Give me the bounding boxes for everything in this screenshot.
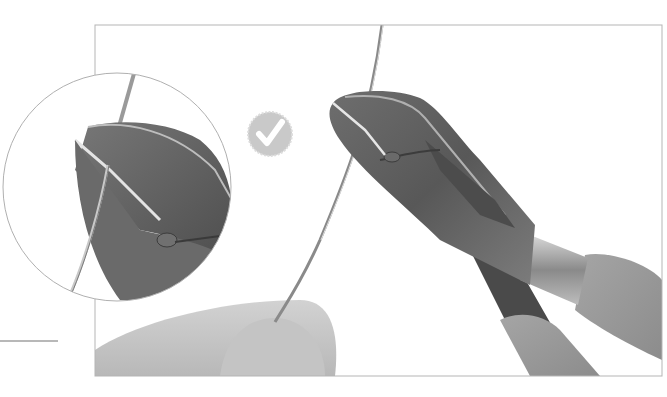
instructional-photo <box>0 0 667 397</box>
checkmark-icon <box>248 112 292 156</box>
